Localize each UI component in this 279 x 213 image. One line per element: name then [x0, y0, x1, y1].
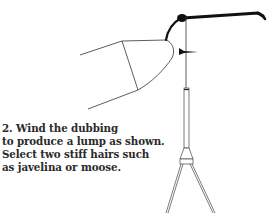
- fly-tying-illustration: [0, 0, 279, 213]
- caption-line-4: as javelina or moose.: [2, 161, 177, 174]
- fly-hook: [166, 13, 265, 40]
- dubbing-lump: [177, 14, 187, 22]
- bobbin-tube: [184, 88, 189, 148]
- caption-line-1: 2. Wind the dubbing: [2, 122, 177, 135]
- step-caption: 2. Wind the dubbing to produce a lump as…: [2, 122, 177, 174]
- caption-line-2: to produce a lump as shown.: [2, 135, 177, 148]
- vise-jaws: [80, 40, 174, 109]
- caption-line-3: Select two stiff hairs such: [2, 148, 177, 161]
- hair-tips: [179, 48, 198, 55]
